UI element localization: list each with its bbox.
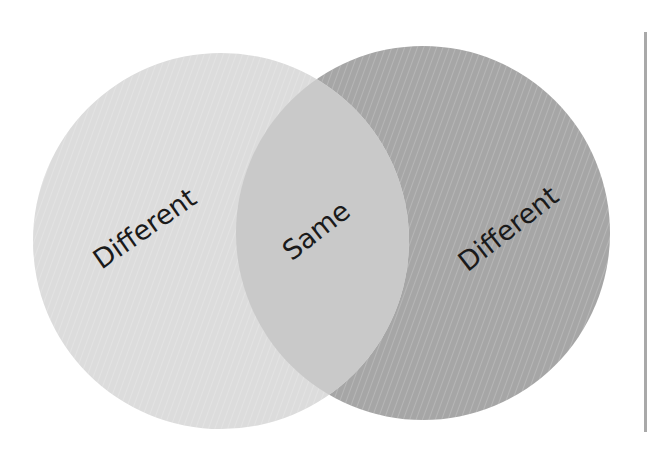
frame-border-line [644, 32, 647, 432]
venn-diagram: Different Same Different [0, 0, 648, 462]
